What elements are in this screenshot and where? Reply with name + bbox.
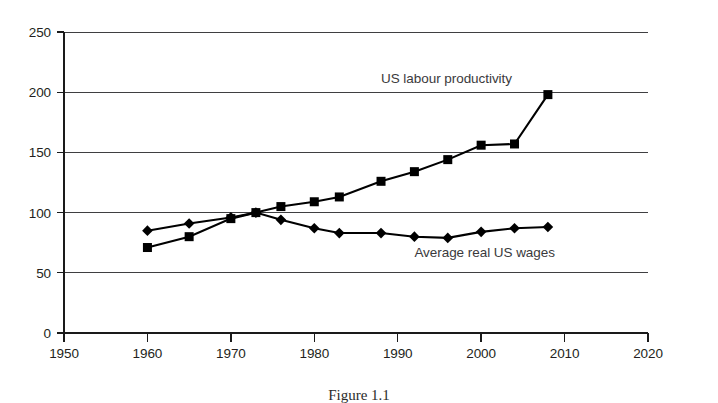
y-tick-label-250: 250 — [29, 25, 51, 40]
x-tick-label-1960: 1960 — [133, 346, 163, 361]
x-tick-label-1990: 1990 — [383, 346, 413, 361]
figure-container: 250 200 150 100 50 0 1950 1960 1970 1980… — [0, 0, 718, 403]
y-tick-label-50: 50 — [36, 266, 51, 281]
series-line-1 — [147, 213, 547, 238]
data-point-2000 — [476, 227, 487, 238]
x-tick-label-2000: 2000 — [466, 346, 496, 361]
series-annotations: US labour productivity Average real US w… — [381, 71, 555, 261]
y-tick-label-100: 100 — [29, 206, 51, 221]
data-point-1983 — [335, 192, 344, 201]
data-point-1980 — [309, 223, 320, 234]
data-point-1996 — [442, 233, 453, 244]
data-point-1976 — [276, 202, 285, 211]
data-point-1960 — [142, 225, 153, 236]
data-point-1960 — [143, 243, 152, 252]
data-point-1988 — [377, 177, 386, 186]
data-series-layer — [142, 90, 553, 252]
y-axis: 250 200 150 100 50 0 — [29, 25, 64, 341]
data-point-2004 — [509, 223, 520, 234]
x-tick-label-1950: 1950 — [49, 346, 79, 361]
data-point-1965 — [185, 232, 194, 241]
figure-caption: Figure 1.1 — [0, 385, 718, 403]
y-tick-label-0: 0 — [44, 326, 51, 341]
data-point-1988 — [376, 228, 387, 239]
y-tick-label-150: 150 — [29, 145, 51, 160]
data-point-1992 — [410, 167, 419, 176]
data-point-2008 — [543, 222, 554, 233]
data-point-1980 — [310, 197, 319, 206]
x-tick-label-1970: 1970 — [216, 346, 246, 361]
series-line-0 — [147, 95, 547, 248]
x-axis: 1950 1960 1970 1980 1990 2000 2010 2020 — [49, 333, 663, 361]
x-tick-label-2010: 2010 — [550, 346, 580, 361]
data-point-1992 — [409, 231, 420, 242]
data-point-2004 — [510, 139, 519, 148]
series-label-average-real-us-wages: Average real US wages — [414, 245, 555, 260]
data-point-1976 — [276, 215, 287, 226]
gridlines — [64, 32, 648, 273]
data-point-2008 — [543, 90, 552, 99]
x-tick-label-2020: 2020 — [633, 346, 663, 361]
x-tick-label-1980: 1980 — [299, 346, 329, 361]
series-label-us-labour-productivity: US labour productivity — [381, 71, 512, 86]
data-point-1983 — [334, 228, 345, 239]
data-point-1996 — [443, 155, 452, 164]
line-chart: 250 200 150 100 50 0 1950 1960 1970 1980… — [0, 0, 718, 403]
y-tick-label-200: 200 — [29, 85, 51, 100]
data-point-2000 — [477, 141, 486, 150]
data-point-1965 — [184, 218, 195, 229]
series-productivity — [143, 90, 552, 252]
